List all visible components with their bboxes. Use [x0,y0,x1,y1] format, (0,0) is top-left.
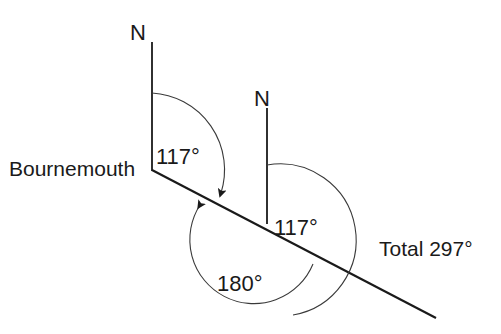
arc-bearing-117-first [152,93,225,193]
angle-label-117-first: 117° [156,144,200,169]
place-label-bournemouth: Bournemouth [9,157,135,180]
angle-label-180: 180° [217,271,263,296]
north-label-2: N [254,86,270,111]
angle-label-117-second: 117° [274,215,318,240]
bearings-diagram-svg: N N Bournemouth 117° 180° 117° Total 297… [0,0,501,334]
diagram-canvas: N N Bournemouth 117° 180° 117° Total 297… [0,0,501,334]
north-label-1: N [130,20,146,45]
total-bearing-label: Total 297° [379,237,473,260]
